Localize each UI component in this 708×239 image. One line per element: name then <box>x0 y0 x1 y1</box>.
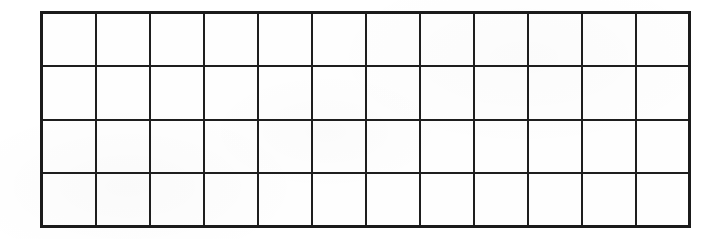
table-cell[interactable] <box>366 120 420 174</box>
table-cell[interactable] <box>150 120 204 174</box>
table-cell[interactable] <box>636 13 690 67</box>
table-cell[interactable] <box>528 173 582 227</box>
table-row <box>42 120 690 174</box>
table-cell[interactable] <box>312 120 366 174</box>
table-cell[interactable] <box>474 66 528 120</box>
grid-table <box>40 11 691 228</box>
table-cell[interactable] <box>366 13 420 67</box>
table-cell[interactable] <box>150 66 204 120</box>
table-cell[interactable] <box>528 66 582 120</box>
table-cell[interactable] <box>420 173 474 227</box>
table-cell[interactable] <box>636 66 690 120</box>
table-cell[interactable] <box>204 120 258 174</box>
table-cell[interactable] <box>150 173 204 227</box>
table-cell[interactable] <box>312 66 366 120</box>
table-cell[interactable] <box>474 120 528 174</box>
table-cell[interactable] <box>42 173 96 227</box>
table-cell[interactable] <box>258 120 312 174</box>
table-cell[interactable] <box>150 13 204 67</box>
table-cell[interactable] <box>96 173 150 227</box>
table-cell[interactable] <box>366 173 420 227</box>
table-cell[interactable] <box>474 173 528 227</box>
table-row <box>42 173 690 227</box>
table-cell[interactable] <box>474 13 528 67</box>
table-row <box>42 66 690 120</box>
table-cell[interactable] <box>582 173 636 227</box>
table-cell[interactable] <box>204 13 258 67</box>
table-cell[interactable] <box>96 120 150 174</box>
table-cell[interactable] <box>582 66 636 120</box>
table-cell[interactable] <box>204 66 258 120</box>
table-cell[interactable] <box>420 66 474 120</box>
table-cell[interactable] <box>636 173 690 227</box>
table-cell[interactable] <box>582 120 636 174</box>
table-cell[interactable] <box>528 13 582 67</box>
table-cell[interactable] <box>204 173 258 227</box>
table-cell[interactable] <box>312 13 366 67</box>
table-cell[interactable] <box>96 66 150 120</box>
table-cell[interactable] <box>42 66 96 120</box>
table-row <box>42 13 690 67</box>
page-surface <box>0 0 708 239</box>
table-cell[interactable] <box>258 66 312 120</box>
grid-table-body <box>42 13 690 227</box>
table-cell[interactable] <box>96 13 150 67</box>
table-cell[interactable] <box>636 120 690 174</box>
table-cell[interactable] <box>42 13 96 67</box>
table-cell[interactable] <box>42 120 96 174</box>
table-cell[interactable] <box>420 13 474 67</box>
table-cell[interactable] <box>366 66 420 120</box>
table-cell[interactable] <box>582 13 636 67</box>
table-cell[interactable] <box>420 120 474 174</box>
table-cell[interactable] <box>312 173 366 227</box>
table-cell[interactable] <box>528 120 582 174</box>
table-cell[interactable] <box>258 13 312 67</box>
table-cell[interactable] <box>258 173 312 227</box>
